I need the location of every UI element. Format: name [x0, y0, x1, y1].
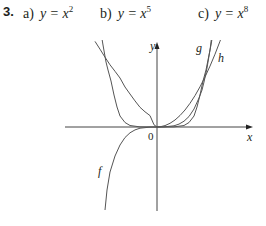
- curve-label-f: f: [98, 164, 103, 178]
- y-axis-label: y: [149, 39, 156, 53]
- x-axis-label: x: [246, 130, 253, 144]
- origin-label: 0: [148, 130, 154, 142]
- curve-label-g: g: [196, 41, 202, 55]
- curve-f: [105, 30, 213, 210]
- curve-h: [95, 33, 223, 127]
- x-axis-arrow-icon: [246, 125, 253, 130]
- graph-figure: y x 0 g h f: [0, 0, 266, 226]
- curve-label-h: h: [218, 51, 224, 65]
